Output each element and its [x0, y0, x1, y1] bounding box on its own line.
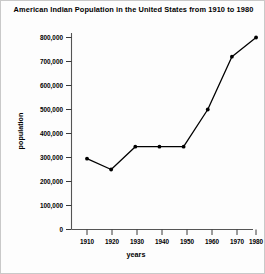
x-tick-label: 1970 [230, 238, 245, 245]
x-tick-label: 1940 [155, 238, 170, 245]
y-tick-label: 800,000 [40, 34, 64, 42]
data-points [85, 36, 258, 172]
data-point [109, 168, 113, 172]
x-tick-label: 1960 [205, 238, 220, 245]
data-point [206, 108, 210, 112]
data-point [133, 145, 137, 149]
x-axis-ticks: 1910 1920 1930 1940 1950 1960 1970 1980 [80, 230, 264, 246]
y-tick-label: 300,000 [40, 154, 64, 162]
data-point [85, 157, 89, 161]
x-tick-label: 1920 [105, 238, 120, 245]
chart-figure: American Indian Population in the United… [0, 0, 265, 274]
y-tick-label: 600,000 [40, 82, 64, 90]
y-tick-label: 700,000 [40, 58, 64, 66]
y-tick-label: 100,000 [40, 202, 64, 210]
data-point [158, 145, 162, 149]
x-tick-label: 1930 [130, 238, 145, 245]
data-point [254, 36, 258, 40]
x-tick-label: 1980 [249, 238, 264, 245]
x-tick-label: 1910 [80, 238, 95, 245]
x-axis-label: years [127, 250, 146, 259]
y-tick-label: 400,000 [40, 130, 64, 138]
plot-area: 0 100,000 200,000 300,000 400,000 500,00… [1, 1, 265, 274]
y-tick-label: 0 [59, 226, 63, 233]
y-tick-label: 200,000 [40, 178, 64, 186]
data-point [182, 145, 186, 149]
data-point [230, 55, 234, 59]
y-tick-label: 500,000 [40, 106, 64, 114]
y-axis-label: population [16, 113, 25, 150]
y-axis-ticks: 0 100,000 200,000 300,000 400,000 500,00… [40, 34, 72, 233]
x-tick-label: 1950 [180, 238, 195, 245]
